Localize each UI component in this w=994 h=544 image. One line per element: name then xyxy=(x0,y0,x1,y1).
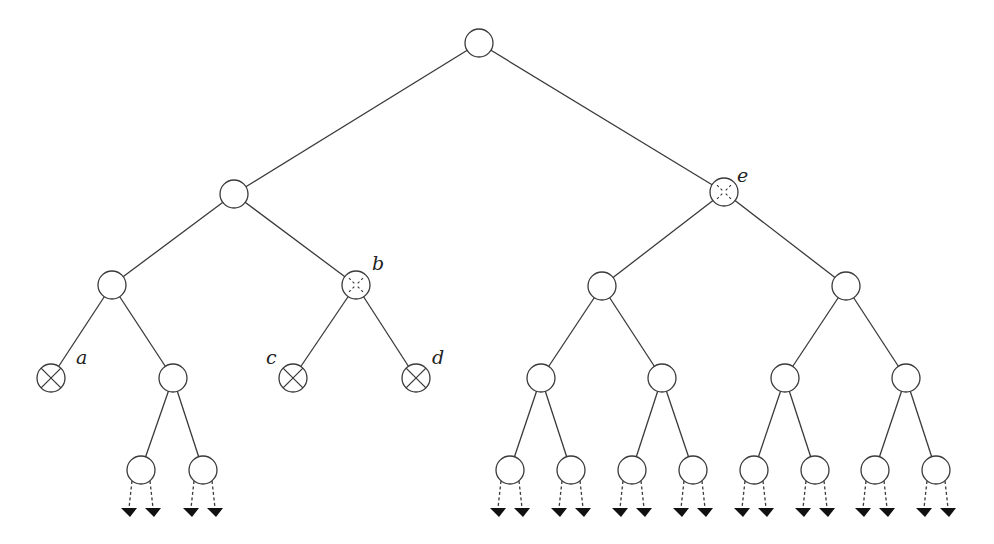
dashed-edge xyxy=(742,481,745,508)
node-circle xyxy=(771,364,799,392)
node-circle xyxy=(557,456,585,484)
node-label-b: b xyxy=(372,252,384,274)
tree-node xyxy=(771,364,799,392)
arrow-down-icon xyxy=(697,508,713,517)
arrow-down-icon xyxy=(636,508,652,517)
tree-node xyxy=(527,364,555,392)
tree-edge xyxy=(541,286,602,378)
node-circle xyxy=(801,456,829,484)
node-circle xyxy=(832,272,860,300)
node-circle xyxy=(710,178,738,206)
tree-edge xyxy=(293,285,356,378)
tree-edge xyxy=(112,285,173,378)
arrow-down-icon xyxy=(551,508,567,517)
tree-node xyxy=(98,271,126,299)
node-circle xyxy=(496,456,524,484)
node-circle xyxy=(618,456,646,484)
node-circle xyxy=(98,271,126,299)
arrow-down-icon xyxy=(855,508,871,517)
dashed-edge xyxy=(150,481,153,508)
arrow-down-icon xyxy=(673,508,689,517)
node-circle xyxy=(220,180,248,208)
dashed-edge xyxy=(884,481,887,508)
node-label-c: c xyxy=(266,346,277,368)
node-circle xyxy=(648,364,676,392)
arrow-down-icon xyxy=(879,508,895,517)
tree-nodes xyxy=(37,29,950,484)
dashed-edge xyxy=(498,481,501,508)
node-label-e: e xyxy=(737,164,748,186)
node-labels: ebacd xyxy=(76,164,748,368)
dashed-edge xyxy=(559,481,562,508)
dashed-edge xyxy=(945,481,948,508)
dashed-edge xyxy=(824,481,827,508)
arrow-down-icon xyxy=(490,508,506,517)
tree-node xyxy=(557,456,585,484)
arrow-down-icon xyxy=(940,508,956,517)
tree-node xyxy=(679,456,707,484)
tree-node xyxy=(465,29,493,57)
arrow-down-icon xyxy=(121,508,137,517)
dashed-edge xyxy=(191,481,194,508)
node-circle xyxy=(892,364,920,392)
dashed-edge xyxy=(803,481,806,508)
tree-edge xyxy=(234,43,479,194)
arrow-down-icon xyxy=(575,508,591,517)
arrow-down-icon xyxy=(145,508,161,517)
arrow-down-icon xyxy=(207,508,223,517)
dashed-edge xyxy=(129,481,132,508)
dashed-edge xyxy=(641,481,644,508)
node-circle xyxy=(127,456,155,484)
tree-node xyxy=(496,456,524,484)
tree-node-b xyxy=(342,271,370,299)
tree-node xyxy=(220,180,248,208)
tree-node xyxy=(892,364,920,392)
tree-edge xyxy=(356,285,416,378)
arrow-down-icon xyxy=(183,508,199,517)
node-label-d: d xyxy=(432,346,444,368)
dashed-edge xyxy=(681,481,684,508)
tree-node xyxy=(618,456,646,484)
tree-node xyxy=(861,456,889,484)
binary-tree-diagram: ebacd xyxy=(0,0,994,544)
node-circle xyxy=(861,456,889,484)
tree-edge xyxy=(846,286,906,378)
node-circle xyxy=(922,456,950,484)
tree-edge xyxy=(234,194,356,285)
node-circle xyxy=(159,364,187,392)
tree-node-d xyxy=(402,364,430,392)
tree-node-c xyxy=(279,364,307,392)
tree-node-a xyxy=(37,364,65,392)
dashed-edge xyxy=(924,481,927,508)
dashed-edge xyxy=(212,481,215,508)
node-circle xyxy=(740,456,768,484)
dashed-edge xyxy=(702,481,705,508)
node-circle xyxy=(189,456,217,484)
tree-edge xyxy=(602,192,724,286)
frontier-arrows xyxy=(121,481,956,517)
tree-node-e xyxy=(710,178,738,206)
tree-node xyxy=(127,456,155,484)
tree-node xyxy=(648,364,676,392)
dashed-edge xyxy=(763,481,766,508)
tree-edge xyxy=(112,194,234,285)
arrow-down-icon xyxy=(612,508,628,517)
tree-edges xyxy=(51,43,936,470)
tree-node xyxy=(159,364,187,392)
dashed-edge xyxy=(519,481,522,508)
dashed-edge xyxy=(863,481,866,508)
dashed-edge xyxy=(580,481,583,508)
tree-node xyxy=(189,456,217,484)
tree-node xyxy=(588,272,616,300)
arrow-down-icon xyxy=(916,508,932,517)
tree-edge xyxy=(724,192,846,286)
node-circle xyxy=(588,272,616,300)
arrow-down-icon xyxy=(734,508,750,517)
arrow-down-icon xyxy=(819,508,835,517)
tree-edge xyxy=(785,286,846,378)
tree-node xyxy=(832,272,860,300)
tree-edge xyxy=(602,286,662,378)
arrow-down-icon xyxy=(514,508,530,517)
node-circle xyxy=(679,456,707,484)
tree-node xyxy=(922,456,950,484)
